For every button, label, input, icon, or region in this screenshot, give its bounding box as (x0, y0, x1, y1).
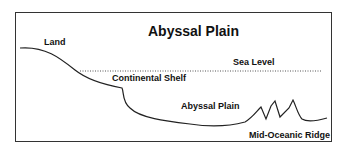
mid-oceanic-ridge-label: Mid-Oceanic Ridge (249, 131, 330, 140)
sea-level-label: Sea Level (233, 58, 275, 67)
abyssal-plain-label: Abyssal Plain (181, 102, 240, 111)
land-label: Land (44, 38, 66, 47)
diagram-title: Abyssal Plain (148, 24, 239, 38)
seafloor-curve (20, 48, 327, 126)
continental-shelf-label: Continental Shelf (112, 74, 186, 83)
